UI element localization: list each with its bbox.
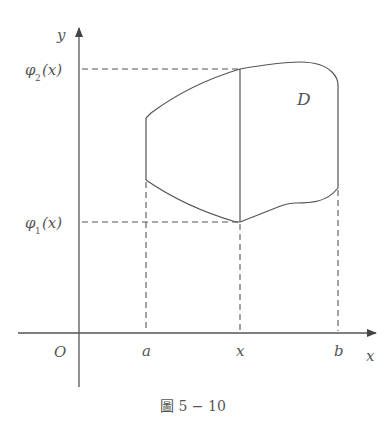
lower-curve: [146, 180, 338, 222]
svg-text:x: x: [236, 342, 245, 360]
svg-text:圖 5 − 10: 圖 5 − 10: [160, 398, 226, 414]
region-d-boundary: [146, 62, 338, 222]
svg-text:y: y: [56, 26, 66, 44]
svg-text:D: D: [296, 89, 311, 109]
x-axis-label: x: [366, 347, 375, 365]
origin-label: O: [54, 343, 66, 361]
y-axis-label: y: [56, 26, 66, 44]
figure-caption: 圖 5 − 10: [160, 398, 226, 414]
x-tick-label: x: [236, 342, 245, 360]
svg-text:a: a: [142, 342, 151, 360]
svg-text:(x): (x): [42, 214, 62, 232]
b-tick-label: b: [334, 342, 344, 360]
phi1-label: φ 1 (x): [25, 214, 62, 236]
svg-text:2: 2: [35, 73, 41, 83]
svg-text:x: x: [366, 347, 375, 365]
region-label: D: [296, 89, 311, 109]
svg-text:(x): (x): [42, 61, 62, 79]
phi2-label: φ 2 (x): [25, 61, 62, 83]
svg-text:b: b: [334, 342, 344, 360]
a-tick-label: a: [142, 342, 151, 360]
svg-text:O: O: [54, 343, 66, 361]
svg-text:1: 1: [35, 226, 41, 236]
region-diagram: y x O φ 2 (x) φ 1 (x) a x b D: [0, 0, 391, 421]
